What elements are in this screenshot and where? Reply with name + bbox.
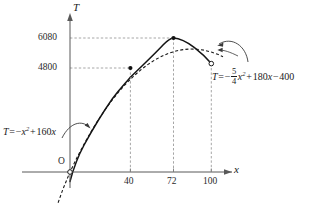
- x-tick-label-100: 100: [203, 176, 217, 186]
- data-point-40-4800: [128, 66, 132, 70]
- x-axis-label: x: [234, 164, 239, 175]
- equation-left-linear-var: x: [51, 126, 55, 137]
- leader-arrow-right-secondary-head: [217, 48, 222, 52]
- leader-arrow-right: [219, 41, 248, 62]
- fraction-numerator: 5: [231, 67, 237, 76]
- x-tick-label-40: 40: [124, 176, 134, 186]
- equation-right-constant: 400: [279, 71, 294, 82]
- equation-right-fraction: 54: [231, 67, 237, 86]
- y-tick-label-6080: 6080: [38, 32, 57, 42]
- graph-figure: T x O 6080 4800 40 72 100 T=−x2+160x T=−…: [0, 0, 318, 204]
- fraction-denominator: 4: [231, 76, 237, 86]
- equation-right-coefficient: 180: [253, 71, 268, 82]
- equation-right-equals: =: [218, 71, 225, 82]
- x-tick-label-72: 72: [167, 176, 177, 186]
- x-axis-arrowhead: [224, 169, 232, 175]
- y-axis-arrowhead: [67, 13, 73, 21]
- curve-dashed-parabola: [53, 49, 223, 204]
- curve-solid-falling: [130, 38, 211, 77]
- origin-label: O: [58, 156, 65, 166]
- curve-solid-rising: [70, 77, 130, 181]
- leader-arrow-left-head: [85, 123, 91, 129]
- equation-right-lhs: T: [212, 71, 218, 82]
- equation-left: T=−x2+160x: [3, 126, 56, 137]
- equation-right-minus: −: [225, 71, 231, 82]
- equation-left-equals: =: [9, 126, 16, 137]
- equation-right: T=−54x2+180x−400: [212, 67, 294, 86]
- y-tick-label-4800: 4800: [38, 62, 57, 72]
- equation-left-lhs: T: [3, 126, 9, 137]
- data-point-100-open: [209, 61, 214, 66]
- plot-canvas: [0, 0, 318, 204]
- curve-solid-parabola: [70, 38, 211, 181]
- y-axis-label: T: [73, 2, 79, 13]
- data-point-72-6080: [171, 36, 175, 40]
- origin-point-open: [68, 170, 73, 175]
- equation-right-plus: +: [245, 71, 252, 82]
- equation-left-coefficient: 160: [36, 126, 51, 137]
